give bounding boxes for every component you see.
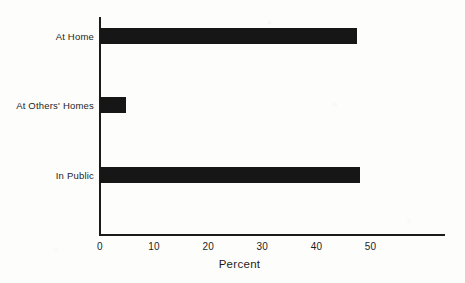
x-tick-50: 50: [351, 241, 391, 252]
category-label-in-public: In Public: [56, 170, 94, 181]
bar-at-home: [100, 28, 357, 44]
bar-at-others-homes: [100, 97, 126, 113]
x-tick-10: 10: [134, 241, 174, 252]
x-tick-0: 0: [80, 241, 120, 252]
x-axis-line: [99, 234, 445, 236]
bar-in-public: [100, 167, 360, 183]
y-axis-line: [99, 17, 101, 236]
category-label-at-others-homes: At Others' Homes: [16, 100, 94, 111]
bar-chart-figure: At Home At Others' Homes In Public 0 10 …: [0, 0, 465, 283]
x-axis-title: Percent: [7, 258, 465, 270]
x-tick-20: 20: [188, 241, 228, 252]
x-tick-30: 30: [242, 241, 282, 252]
x-tick-40: 40: [296, 241, 336, 252]
category-label-at-home: At Home: [56, 31, 94, 42]
